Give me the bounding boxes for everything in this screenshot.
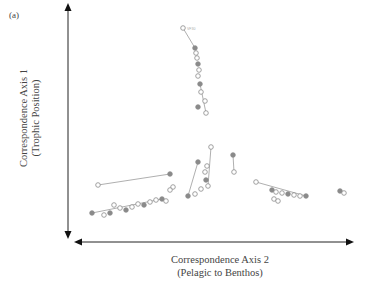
data-point	[342, 191, 347, 196]
data-point	[118, 206, 123, 211]
data-point	[196, 160, 201, 165]
data-point	[206, 184, 211, 189]
data-points: VF30	[90, 26, 347, 218]
data-point	[205, 164, 210, 169]
data-point	[130, 205, 135, 210]
data-point	[195, 56, 200, 61]
data-point	[274, 190, 279, 195]
data-point	[276, 199, 281, 204]
data-point	[231, 153, 236, 158]
x-axis-subtitle: (Pelagic to Benthos)	[110, 266, 330, 279]
data-point	[199, 90, 204, 95]
y-axis-subtitle: (Trophic Position)	[30, 38, 42, 198]
data-point	[90, 211, 95, 216]
data-point	[136, 202, 141, 207]
data-point	[193, 192, 198, 197]
data-point	[193, 46, 198, 51]
data-point	[148, 200, 153, 205]
data-point	[286, 192, 291, 197]
data-point	[181, 26, 186, 31]
data-point	[198, 82, 203, 87]
x-axis-title: Correspondence Axis 2	[110, 253, 330, 266]
scatter-plot: VF30	[0, 0, 376, 287]
connecting-line	[183, 28, 195, 48]
x-axis-arrow	[74, 239, 354, 246]
data-point	[196, 105, 201, 110]
data-point	[254, 180, 259, 185]
connecting-line	[98, 174, 170, 185]
y-axis-arrow	[65, 3, 72, 239]
data-point	[142, 203, 147, 208]
data-point	[204, 178, 209, 183]
data-point	[209, 145, 214, 150]
data-point	[102, 213, 107, 218]
data-point	[199, 187, 204, 192]
data-point	[108, 211, 113, 216]
data-point	[186, 194, 191, 199]
data-point	[194, 51, 199, 56]
data-point	[203, 170, 208, 175]
data-point	[168, 172, 173, 177]
data-point	[154, 198, 159, 203]
x-axis-label: Correspondence Axis 2 (Pelagic to Bentho…	[110, 253, 330, 279]
data-point	[168, 188, 173, 193]
data-point	[203, 99, 208, 104]
data-point	[280, 191, 285, 196]
data-point	[96, 183, 101, 188]
data-point	[124, 208, 129, 213]
y-axis-title: Correspondence Axis 1	[18, 38, 30, 198]
data-point	[304, 194, 309, 199]
data-point	[197, 68, 202, 73]
data-point	[196, 62, 201, 67]
connecting-line	[188, 162, 198, 196]
data-point	[232, 170, 237, 175]
point-label: VF30	[187, 27, 195, 31]
data-point	[204, 111, 209, 116]
data-point	[298, 194, 303, 199]
data-point	[292, 193, 297, 198]
connecting-lines	[92, 28, 344, 213]
data-point	[196, 74, 201, 79]
data-point	[164, 199, 169, 204]
data-point	[112, 203, 117, 208]
